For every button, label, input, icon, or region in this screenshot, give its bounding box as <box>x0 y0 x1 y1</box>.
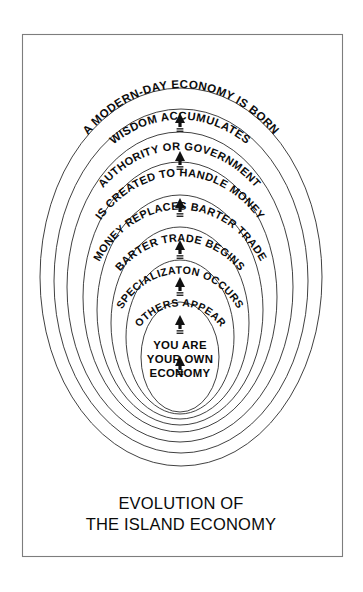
center-label-line-2: YOUR OWN <box>147 353 213 365</box>
figure-root: A MODERN-DAY ECONOMY IS BORN WISDOM ACCU… <box>0 0 363 592</box>
center-label: YOU ARE YOUR OWN ECONOMY <box>147 339 213 379</box>
caption-line-1: EVOLUTION OF <box>118 494 243 512</box>
evolution-diagram-svg: A MODERN-DAY ECONOMY IS BORN WISDOM ACCU… <box>0 0 363 592</box>
caption-line-2: THE ISLAND ECONOMY <box>86 515 277 533</box>
center-label-line-3: ECONOMY <box>150 367 211 379</box>
center-label-line-1: YOU ARE <box>153 339 207 351</box>
